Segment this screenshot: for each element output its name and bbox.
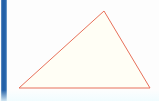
app-canvas — [0, 0, 159, 101]
triangle-shape[interactable] — [19, 11, 150, 88]
triangle-figure-svg — [0, 0, 159, 101]
figure-layer — [0, 0, 159, 101]
